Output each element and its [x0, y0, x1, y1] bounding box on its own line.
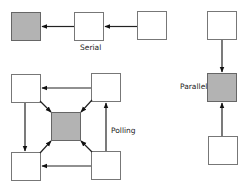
polling-hub-node [52, 113, 81, 141]
serial-hub-node [12, 13, 41, 41]
serial-label: Serial [80, 43, 101, 52]
serial-middle-node [75, 13, 104, 41]
polling-bottom-left-node [12, 153, 41, 181]
parallel-label: Parallel [180, 82, 207, 91]
polling-top-right-node [92, 74, 121, 102]
parallel-hub-node [208, 74, 237, 102]
topology-diagram [0, 0, 250, 191]
polling-top-left-node [12, 75, 41, 103]
parallel-top-node [208, 12, 237, 40]
polling-diag-bl [40, 141, 51, 153]
polling-bottom-right-node [92, 152, 121, 180]
parallel-bottom-node [209, 137, 238, 165]
serial-right-node [138, 12, 167, 40]
polling-diag-tr [81, 100, 92, 112]
serial-diagram [12, 12, 167, 41]
polling-diagram [12, 74, 121, 181]
polling-diag-tl [40, 101, 51, 112]
polling-label: Polling [111, 126, 136, 135]
polling-diag-br [81, 141, 92, 152]
parallel-diagram [208, 12, 238, 165]
